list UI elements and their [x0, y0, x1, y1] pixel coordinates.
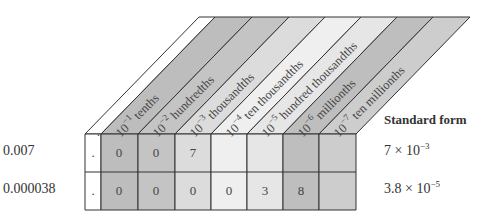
digit-cell: 7 — [175, 134, 211, 172]
standard-form-2: 3.8 × 10−5 — [384, 181, 440, 197]
standard-form-header: Standard form — [384, 112, 467, 128]
decimal-point-cell: . — [85, 172, 101, 210]
digit-cell: 8 — [283, 172, 319, 210]
digit-cell — [319, 134, 355, 172]
digit-cell — [247, 134, 283, 172]
digit-cell — [283, 134, 319, 172]
digit-cell: 3 — [247, 172, 283, 210]
digit-cell — [319, 172, 355, 210]
digit-cell — [211, 134, 247, 172]
digit-cell: 0 — [101, 172, 137, 210]
digit-cell: 0 — [101, 134, 137, 172]
row-number-1: 0.007 — [3, 143, 35, 159]
standard-form-1: 7 × 10−3 — [384, 143, 429, 159]
digit-cell: 0 — [138, 172, 174, 210]
digit-cell: 0 — [175, 172, 211, 210]
row-number-2: 0.000038 — [3, 181, 56, 197]
decimal-point-cell: . — [85, 134, 101, 172]
digit-cell: 0 — [138, 134, 174, 172]
digit-cell: 0 — [211, 172, 247, 210]
